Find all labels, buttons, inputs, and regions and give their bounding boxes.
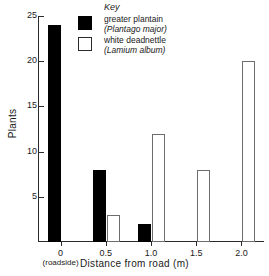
bar [93,170,106,242]
y-tick-label: 10 [27,146,37,156]
legend-common-name: greater plantain [104,14,193,24]
legend-common-name: white deadnettle [104,35,193,45]
x-axis-title: Distance from road (m) [0,258,269,269]
bar-chart-figure: 510152025 0(roadside)0.51.01.52.0 Plants… [0,0,269,276]
legend: Key greater plantain(Plantago major)whit… [78,2,193,55]
legend-latin-name: (Lamium album) [104,45,193,55]
bar [138,224,151,242]
bar [107,215,120,242]
x-tick-label: 0.5 [82,248,130,258]
x-tick-label: 0 [37,248,85,258]
legend-swatch-hollow [78,37,92,51]
bar [48,25,61,242]
legend-entry-text: greater plantain(Plantago major) [104,14,193,34]
legend-entry-text: white deadnettle(Lamium album) [104,35,193,55]
y-tick-label: 20 [27,55,37,65]
x-tick-label: 2.0 [217,248,265,258]
legend-entry: greater plantain(Plantago major) [78,14,193,34]
legend-entries: greater plantain(Plantago major)white de… [78,14,193,55]
bar [152,134,165,242]
x-tick-label: 1.5 [172,248,220,258]
y-axis-title: Plants [7,94,18,154]
bar [197,170,210,242]
legend-swatch-filled [78,16,92,30]
legend-title: Key [104,2,193,13]
legend-latin-name: (Plantago major) [104,24,193,34]
y-tick-label: 25 [27,10,37,20]
legend-entry: white deadnettle(Lamium album) [78,35,193,55]
bar [242,61,255,242]
y-tick-label: 5 [32,191,37,201]
x-tick-label: 1.0 [127,248,175,258]
y-tick-label: 15 [27,100,37,110]
